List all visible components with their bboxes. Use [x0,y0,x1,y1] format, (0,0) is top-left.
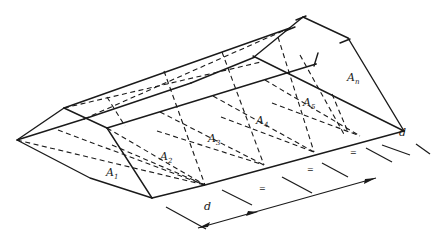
label-a3: A3 [207,132,221,147]
label-d-right: d [399,126,406,139]
area-labels: A1 A2 A3 A4 A5 An [105,71,360,181]
label-a4: A4 [255,114,268,129]
label-d-left: d [204,200,211,213]
equal-mark-2: = [307,165,314,174]
label-a5: A5 [302,96,316,111]
label-an: An [346,71,360,86]
solid-edges [17,16,404,198]
equal-mark-3: = [350,148,357,157]
equal-mark-1: = [259,184,266,193]
label-a1: A1 [105,166,118,181]
dimension-lines [166,144,430,229]
prismatoid-diagram: A1 A2 A3 A4 A5 An d d = = = [0,0,442,238]
arrowhead [364,178,376,184]
label-a2: A2 [159,150,173,165]
